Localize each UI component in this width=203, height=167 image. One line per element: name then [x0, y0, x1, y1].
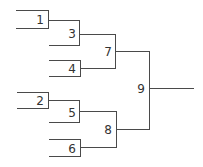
match-3: 3: [49, 21, 80, 46]
match-6: 6: [49, 140, 81, 157]
match-label-5: 5: [68, 106, 76, 120]
match-label-7: 7: [104, 45, 112, 59]
match-label-4: 4: [68, 62, 76, 76]
match-1: 1: [16, 11, 49, 29]
match-label-6: 6: [68, 142, 76, 156]
match-7: 7: [80, 35, 116, 69]
match-5: 5: [49, 101, 80, 123]
match-2: 2: [17, 93, 49, 109]
match-8: 8: [80, 112, 117, 148]
tournament-bracket: 1 3 4 7 2 5 6 8 9: [0, 0, 203, 167]
match-label-3: 3: [68, 27, 76, 41]
match-label-2: 2: [36, 94, 44, 108]
match-label-1: 1: [36, 13, 44, 27]
match-9: 9: [116, 52, 194, 130]
match-label-9: 9: [137, 82, 145, 96]
match-4: 4: [49, 61, 81, 77]
match-label-8: 8: [104, 123, 112, 137]
